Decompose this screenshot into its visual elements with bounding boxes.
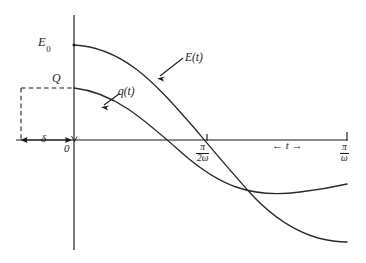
leader-line-q-of-t [104,94,119,105]
leader-arrow-head-e-of-t [157,77,166,82]
label-t-axis: ← t → [272,140,303,151]
label-delta-lag: δ [41,133,46,144]
label-q-amplitude: Q [52,72,61,84]
leader-line-e-of-t [160,58,183,76]
figure-container: E0 Q E(t) q(t) 0 δ ← t → π 2ω π ω [0,0,366,263]
plot-canvas [0,0,366,263]
label-q-of-t: q(t) [118,86,135,98]
tick-label-full-period: π ω [340,143,349,164]
tick-label-half-period: π 2ω [196,143,209,164]
label-origin: 0 [64,143,70,154]
curve-q-of-t [74,88,347,194]
curve-e-of-t [74,45,347,242]
e0-marker-dot [73,44,76,47]
label-e-naught: E0 [38,36,50,52]
label-e-of-t: E(t) [185,52,203,64]
leader-arrow-head-q-of-t [101,106,110,111]
delta-arrow-head-left [21,137,28,143]
